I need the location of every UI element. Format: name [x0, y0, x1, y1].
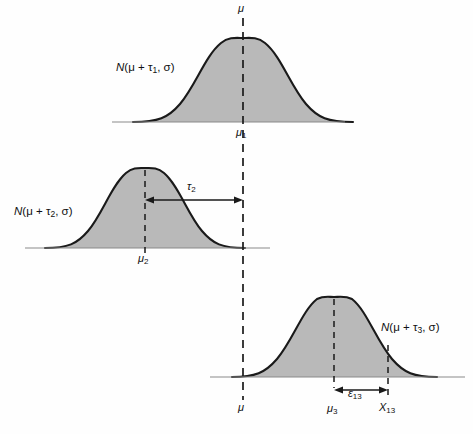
distribution-2-label: N(μ + τ2, σ): [14, 206, 73, 219]
epsilon13-arrow-label: ε13: [348, 388, 362, 401]
dist3-plus: +: [400, 321, 413, 333]
distribution-group-1: [112, 38, 353, 122]
mu2-tick-label: μ2: [138, 253, 148, 266]
mu3-tick-label: μ3: [327, 403, 337, 416]
dist1-plus: +: [135, 61, 148, 73]
tau2-arrow-label: τ2: [187, 181, 196, 194]
dist2-close: ): [69, 205, 73, 217]
dist2-plus: +: [33, 205, 46, 217]
mu-top-label: μ: [238, 3, 244, 14]
mu2-sub: 2: [144, 257, 148, 266]
mu1-tick-label: μ1: [236, 127, 246, 140]
tau2-sub: 2: [191, 185, 195, 194]
distribution-3-label: N(μ + τ3, σ): [381, 322, 440, 335]
dist3-sigma: σ: [429, 321, 436, 333]
dist3-mu: μ: [393, 321, 400, 333]
mu1-sub: 1: [242, 131, 246, 140]
dist2-mu: μ: [26, 205, 33, 217]
x13-sub: 13: [386, 406, 395, 415]
distribution-1-label: N(μ + τ1, σ): [116, 62, 175, 75]
mu-bottom-label: μ: [238, 402, 244, 413]
dist3-close: ): [436, 321, 440, 333]
distribution-group-3: [210, 297, 465, 377]
dist1-sigma: σ: [164, 61, 171, 73]
x13-tick-label: X13: [379, 402, 395, 415]
dist1-close: ): [171, 61, 175, 73]
eps13-sub: 13: [353, 392, 362, 401]
dist1-mu: μ: [128, 61, 135, 73]
mu3-sub: 3: [333, 407, 337, 416]
dist2-sigma: σ: [62, 205, 69, 217]
distribution-figure: μ μ N(μ + τ1, σ) N(μ + τ2, σ) N(μ + τ3, …: [0, 0, 473, 434]
